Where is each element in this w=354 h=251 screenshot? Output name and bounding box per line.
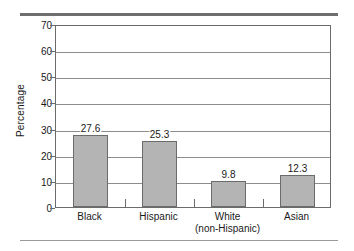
bar-value-label: 27.6 [80, 123, 101, 134]
x-axis-category-label-line: White [195, 211, 260, 223]
bottom-rule [20, 240, 338, 241]
bar-value-label: 9.8 [221, 169, 237, 180]
gridline [56, 104, 330, 105]
gridline [56, 52, 330, 53]
x-axis-category-label-line: Asian [284, 211, 309, 223]
y-axis-tick-label: 40 [12, 98, 52, 109]
x-axis-category-label: White(non-Hispanic) [195, 211, 260, 235]
y-axis-tick-label: 30 [12, 124, 52, 135]
bar-value-label: 12.3 [287, 163, 308, 174]
x-axis-category-label-line: Hispanic [139, 211, 177, 223]
figure: Percentage 010203040506070 27.625.39.812… [0, 0, 354, 251]
bar [142, 141, 177, 207]
category-separator [194, 199, 195, 207]
x-axis-category-label-line: (non-Hispanic) [195, 223, 260, 235]
category-separator [125, 199, 126, 207]
top-rule [20, 13, 338, 16]
bar [211, 181, 246, 207]
bar [280, 175, 315, 207]
y-axis-tick-label: 20 [12, 150, 52, 161]
y-axis-tick-mark [50, 208, 55, 209]
y-axis-tick-label: 70 [12, 20, 52, 31]
y-axis-tick-label: 50 [12, 72, 52, 83]
x-axis-category-label: Black [77, 211, 101, 223]
y-axis-tick-label: 10 [12, 176, 52, 187]
x-axis-category-label-line: Black [77, 211, 101, 223]
plot-area: 27.625.39.812.3 [55, 25, 331, 208]
bar [73, 135, 108, 207]
y-axis-tick-label: 0 [12, 203, 52, 214]
x-axis-category-label: Asian [284, 211, 309, 223]
y-axis-tick-label: 60 [12, 46, 52, 57]
x-axis-category-label: Hispanic [139, 211, 177, 223]
gridline [56, 78, 330, 79]
bar-value-label: 25.3 [149, 129, 170, 140]
category-separator [263, 199, 264, 207]
